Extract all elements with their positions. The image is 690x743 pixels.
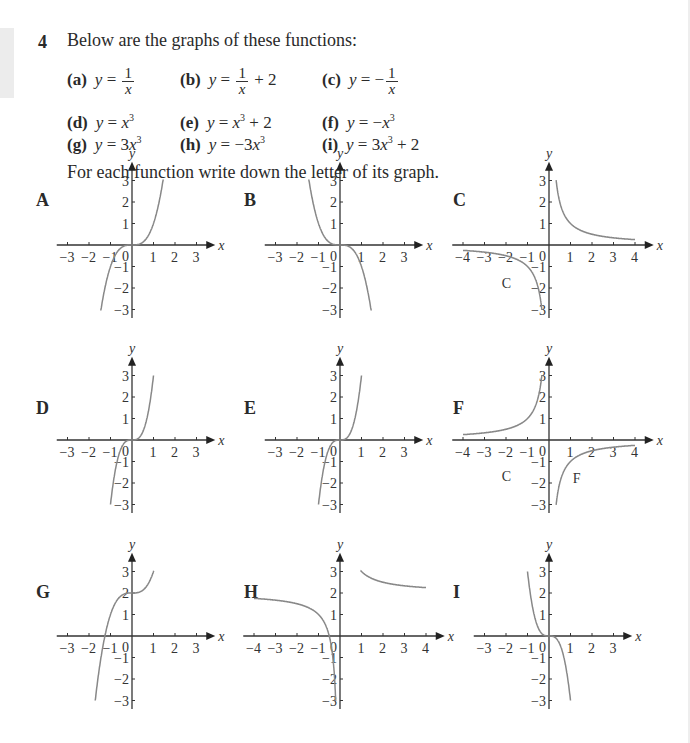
function-c: (c)y = −1x	[322, 66, 400, 97]
x-axis-arrow-icon	[645, 241, 654, 249]
x-tick-label: −3	[268, 445, 283, 460]
x-tick-label: 2	[379, 250, 386, 265]
y-tick-label: −1	[531, 651, 546, 666]
y-tick-label: 1	[330, 608, 337, 623]
y-tick-label: 2	[122, 390, 129, 405]
y-tick-label: 3	[330, 174, 337, 189]
y-axis-arrow-icon	[336, 553, 344, 562]
y-axis-label: y	[335, 146, 344, 161]
x-tick-label: −3	[477, 445, 492, 460]
y-tick-label: −3	[322, 303, 337, 318]
x-tick-label: 2	[379, 445, 386, 460]
y-axis-arrow-icon	[336, 357, 344, 366]
y-tick-label: −1	[322, 260, 337, 275]
x-tick-label: 2	[171, 445, 178, 460]
y-tick-label: 1	[122, 608, 129, 623]
x-tick-label: 3	[610, 250, 617, 265]
x-tick-label: 1	[358, 445, 365, 460]
y-tick-label: −3	[114, 498, 129, 513]
y-tick-label: 2	[539, 586, 546, 601]
function-d: (d)y = x3	[67, 112, 134, 133]
x-tick-label: 3	[193, 445, 200, 460]
x-axis-arrow-icon	[206, 241, 215, 249]
y-tick-label: −1	[531, 260, 546, 275]
x-tick-label: −3	[268, 250, 283, 265]
x-tick-label: −3	[268, 641, 283, 656]
graph-h: xy−4−3−2−112340321−1−2−3	[220, 536, 460, 736]
graph-c: xy−4−3−2−112340321−1−2−3C	[429, 145, 669, 345]
function-f: (f)y = −x3	[322, 112, 395, 133]
y-tick-label: −2	[322, 476, 337, 491]
x-tick-label: −2	[498, 445, 513, 460]
x-tick-label: 1	[150, 445, 157, 460]
y-tick-label: −2	[531, 476, 546, 491]
y-tick-label: 3	[330, 369, 337, 384]
x-tick-label: 2	[171, 641, 178, 656]
x-tick-label: 1	[567, 250, 574, 265]
x-axis-arrow-icon	[414, 241, 423, 249]
x-tick-label: −3	[60, 250, 75, 265]
graph-i: xy−3−2−11230321−1−2−3	[429, 536, 669, 736]
y-axis-arrow-icon	[545, 357, 553, 366]
x-tick-label: −3	[60, 445, 75, 460]
y-tick-label: 3	[539, 174, 546, 189]
function-b: (b)y = 1x + 2	[180, 66, 277, 97]
x-axis-label: x	[634, 629, 642, 644]
question-intro: Below are the graphs of these functions:	[67, 30, 357, 51]
y-tick-label: 1	[539, 412, 546, 427]
y-tick-label: 1	[122, 412, 129, 427]
y-tick-label: 2	[539, 195, 546, 210]
function-curve	[361, 571, 427, 588]
y-tick-label: −3	[322, 694, 337, 709]
x-tick-label: −2	[81, 445, 96, 460]
curve-annotation-c: C	[502, 276, 511, 291]
y-tick-label: −3	[114, 303, 129, 318]
x-axis-arrow-icon	[623, 632, 632, 640]
x-tick-label: −2	[498, 641, 513, 656]
x-tick-label: 1	[150, 641, 157, 656]
x-tick-label: 2	[171, 250, 178, 265]
y-tick-label: 3	[330, 565, 337, 580]
x-tick-label: 2	[588, 445, 595, 460]
y-tick-label: −1	[114, 651, 129, 666]
y-axis-label: y	[127, 146, 136, 161]
y-axis-arrow-icon	[545, 553, 553, 562]
y-axis-label: y	[127, 341, 136, 356]
y-tick-label: −3	[531, 694, 546, 709]
x-tick-label: 2	[588, 641, 595, 656]
x-tick-label: −2	[81, 250, 96, 265]
x-axis-arrow-icon	[414, 436, 423, 444]
y-axis-arrow-icon	[128, 162, 136, 171]
graph-e: xy−3−2−11230321−1−2−3	[220, 340, 460, 540]
x-axis-label: x	[656, 238, 664, 253]
x-tick-label: 3	[401, 641, 408, 656]
x-tick-label: 1	[358, 641, 365, 656]
y-axis-label: y	[544, 341, 553, 356]
x-axis-arrow-icon	[206, 436, 215, 444]
y-tick-label: −2	[531, 672, 546, 687]
x-tick-label: 2	[588, 250, 595, 265]
y-tick-label: 1	[330, 412, 337, 427]
curve-annotation-f: F	[573, 471, 581, 486]
x-tick-label: 4	[631, 250, 638, 265]
y-tick-label: 3	[122, 369, 129, 384]
function-curve	[463, 375, 542, 434]
page-edge-shade	[0, 28, 14, 98]
x-tick-label: −4	[455, 250, 470, 265]
y-tick-label: 3	[539, 565, 546, 580]
y-tick-label: −2	[114, 476, 129, 491]
y-tick-label: 2	[330, 586, 337, 601]
x-tick-label: 3	[193, 250, 200, 265]
x-tick-label: 4	[422, 641, 429, 656]
x-tick-label: −2	[289, 445, 304, 460]
question-number: 4	[38, 32, 47, 53]
x-axis-arrow-icon	[206, 632, 215, 640]
x-tick-label: 4	[631, 445, 638, 460]
graph-f: xy−4−3−2−112340321−1−2−3CF	[429, 340, 669, 540]
y-tick-label: −1	[531, 455, 546, 470]
y-axis-label: y	[127, 537, 136, 552]
graph-b: xy−3−2−11230321−1−2−3	[220, 145, 460, 345]
y-axis-arrow-icon	[545, 162, 553, 171]
x-tick-label: 3	[193, 641, 200, 656]
x-tick-label: −3	[60, 641, 75, 656]
